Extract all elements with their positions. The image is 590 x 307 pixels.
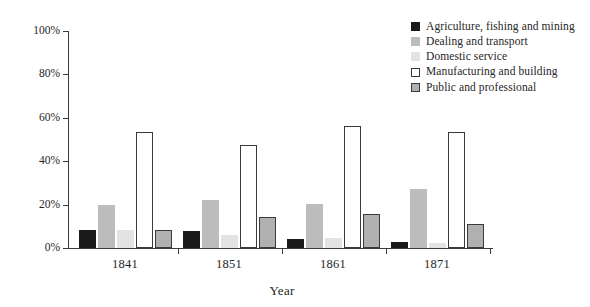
- y-axis-tick-label-text: 100%: [16, 25, 60, 37]
- legend-swatch-icon: [411, 22, 420, 31]
- y-axis-tick-label-text: 20%: [16, 199, 60, 211]
- y-axis-tick-label: 20%: [12, 199, 60, 211]
- y-axis-tick-label: 100%: [12, 25, 60, 37]
- bar: [98, 205, 115, 248]
- bar: [467, 224, 484, 248]
- legend-item: Domestic service: [411, 49, 590, 64]
- legend-swatch-icon: [411, 37, 420, 46]
- bar: [155, 230, 172, 248]
- bar: [448, 132, 465, 248]
- bar: [410, 189, 427, 248]
- bar: [259, 217, 276, 248]
- y-axis-tick-label-text: 40%: [16, 155, 60, 167]
- legend-swatch-icon: [411, 83, 420, 92]
- bar: [287, 239, 304, 248]
- x-axis-tick-label: 1861: [293, 258, 373, 271]
- bar: [391, 242, 408, 249]
- x-axis-title: Year: [0, 283, 564, 299]
- bar: [79, 230, 96, 248]
- x-axis-tick-label: 1851: [189, 258, 269, 271]
- bar: [136, 132, 153, 248]
- x-axis-tick-label: 1871: [397, 258, 477, 271]
- legend-item-label: Agriculture, fishing and mining: [426, 21, 575, 33]
- legend-swatch-icon: [411, 52, 420, 61]
- legend-item: Manufacturing and building: [411, 65, 590, 80]
- bar: [183, 231, 200, 248]
- y-axis-tick-label: 80%: [12, 68, 60, 80]
- bar-group: [79, 30, 172, 248]
- y-axis-tick: [63, 205, 69, 206]
- bar: [221, 235, 238, 248]
- x-axis-tick-label: 1841: [85, 258, 165, 271]
- y-axis-tick: [63, 161, 69, 162]
- legend-item-label: Dealing and transport: [426, 36, 528, 48]
- y-axis-tick-label: 60%: [12, 112, 60, 124]
- x-axis-tick: [282, 248, 283, 254]
- y-axis-tick-label: 0%: [12, 242, 60, 254]
- bar: [363, 214, 380, 248]
- x-axis-tick: [490, 248, 491, 254]
- bar: [325, 238, 342, 248]
- bar: [429, 243, 446, 248]
- x-axis-line: [68, 248, 493, 249]
- legend-item-label: Manufacturing and building: [426, 66, 558, 78]
- bar: [202, 200, 219, 248]
- y-axis-tick-label: 40%: [12, 155, 60, 167]
- bar: [240, 145, 257, 248]
- y-axis-tick: [63, 118, 69, 119]
- bar-group: [287, 30, 380, 248]
- y-axis-line: [68, 31, 69, 249]
- legend-item: Public and professional: [411, 80, 590, 95]
- legend-item-label: Domestic service: [426, 51, 507, 63]
- bar-group: [183, 30, 276, 248]
- x-axis-tick: [386, 248, 387, 254]
- legend-item: Agriculture, fishing and mining: [411, 19, 590, 34]
- bar: [344, 126, 361, 248]
- bar: [306, 204, 323, 248]
- legend-item: Dealing and transport: [411, 34, 590, 49]
- legend-swatch-icon: [411, 68, 420, 77]
- y-axis-tick: [63, 248, 69, 249]
- x-axis-tick: [178, 248, 179, 254]
- chart-legend: Agriculture, fishing and miningDealing a…: [411, 19, 590, 95]
- y-axis-tick: [63, 74, 69, 75]
- y-axis-tick-label-text: 80%: [16, 68, 60, 80]
- y-axis-tick: [63, 31, 69, 32]
- y-axis-tick-label-text: 60%: [16, 112, 60, 124]
- legend-item-label: Public and professional: [426, 82, 536, 94]
- bar: [117, 230, 134, 248]
- y-axis-tick-label-text: 0%: [16, 242, 60, 254]
